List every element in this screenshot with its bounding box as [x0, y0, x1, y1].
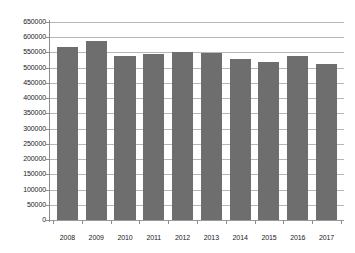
bar[interactable] [143, 54, 164, 220]
bar-slot [283, 22, 312, 220]
x-axis-tick-label: 2008 [60, 234, 75, 241]
x-axis-tick-label: 2016 [290, 234, 305, 241]
bar[interactable] [86, 41, 107, 220]
x-label-slot: 2014 [226, 226, 255, 244]
bar[interactable] [172, 52, 193, 220]
x-axis-tick-label: 2015 [261, 234, 276, 241]
y-axis-tick-label: 600000 [23, 33, 46, 40]
x-axis-tick-label: 2012 [175, 234, 190, 241]
x-axis-tick [312, 220, 313, 224]
x-axis-tick-label: 2017 [319, 234, 334, 241]
x-label-slot: 2017 [312, 226, 341, 244]
x-axis-tick [168, 220, 169, 224]
y-axis-labels: 0500001000001500002000002500003000003500… [0, 0, 46, 253]
x-axis-tick-label: 2011 [146, 234, 161, 241]
y-axis-tick-label: 100000 [23, 186, 46, 193]
bar[interactable] [114, 56, 135, 220]
y-axis-tick-label: 650000 [23, 18, 46, 25]
bar[interactable] [201, 53, 222, 220]
x-axis-labels: 2008200920102011201220132014201520162017 [50, 226, 344, 244]
x-label-slot: 2010 [111, 226, 140, 244]
x-axis-tick-label: 2009 [89, 234, 104, 241]
x-axis-tick [82, 220, 83, 224]
bar-slot [139, 22, 168, 220]
x-axis-tick-label: 2014 [233, 234, 248, 241]
x-label-slot: 2012 [168, 226, 197, 244]
y-axis-tick-label: 450000 [23, 79, 46, 86]
bar[interactable] [230, 59, 251, 220]
y-axis-tick-label: 550000 [23, 48, 46, 55]
x-axis-tick [197, 220, 198, 224]
y-axis-tick-label: 300000 [23, 125, 46, 132]
x-label-slot: 2015 [255, 226, 284, 244]
bar-slot [226, 22, 255, 220]
bar-slot [197, 22, 226, 220]
x-axis-tick [255, 220, 256, 224]
bar-slot [168, 22, 197, 220]
bar-slot [312, 22, 341, 220]
bar[interactable] [287, 56, 308, 220]
x-label-slot: 2016 [283, 226, 312, 244]
x-axis-tick [341, 220, 342, 224]
x-label-slot: 2011 [139, 226, 168, 244]
bar-slot [111, 22, 140, 220]
x-label-slot: 2013 [197, 226, 226, 244]
bar-series [50, 22, 344, 220]
x-axis-tick [283, 220, 284, 224]
x-axis-tick [111, 220, 112, 224]
y-axis-tick-label: 350000 [23, 109, 46, 116]
bar[interactable] [316, 64, 337, 220]
x-axis-tick-label: 2010 [117, 234, 132, 241]
x-axis-tick-label: 2013 [204, 234, 219, 241]
y-axis-tick-label: 500000 [23, 64, 46, 71]
bar[interactable] [57, 47, 78, 220]
x-label-slot: 2009 [82, 226, 111, 244]
y-axis-tick-label: 200000 [23, 155, 46, 162]
bar-slot [82, 22, 111, 220]
bar-slot [53, 22, 82, 220]
x-axis-tick [53, 220, 54, 224]
y-axis-tick-label: 50000 [27, 201, 46, 208]
x-axis-tick [226, 220, 227, 224]
bar-chart: 0500001000001500002000002500003000003500… [0, 0, 355, 253]
plot-area [50, 22, 344, 220]
y-axis-tick-label: 250000 [23, 140, 46, 147]
bar[interactable] [258, 62, 279, 220]
x-label-slot: 2008 [53, 226, 82, 244]
y-axis-tick-label: 150000 [23, 170, 46, 177]
y-axis-tick-label: 400000 [23, 94, 46, 101]
bar-slot [255, 22, 284, 220]
x-axis-tick [139, 220, 140, 224]
